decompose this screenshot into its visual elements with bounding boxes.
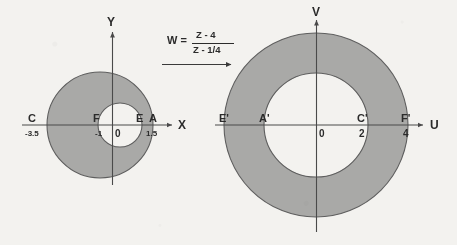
w-plane-tick-label-f-prime: 4 — [403, 128, 409, 139]
w-plane-point-label-a-prime: A' — [259, 112, 270, 124]
z-plane-point-label-a: A — [149, 112, 157, 124]
w-plane-u-axis-label: U — [430, 118, 439, 132]
z-plane-tick-label-a: 1.5 — [146, 129, 158, 138]
diagram-svg: X Y C -3.5 F -1 0 E A 1.5 W = Z - 4 Z - … — [0, 0, 457, 245]
figure-canvas: X Y C -3.5 F -1 0 E A 1.5 W = Z - 4 Z - … — [0, 0, 457, 245]
transform-lhs: W = — [167, 34, 187, 46]
z-plane-y-axis-label: Y — [107, 15, 115, 29]
z-plane-tick-label-f: -1 — [95, 129, 103, 138]
z-plane-tick-label-c: -3.5 — [25, 129, 39, 138]
w-plane-tick-label-c-prime: 2 — [359, 128, 365, 139]
z-plane-origin-label: 0 — [115, 128, 121, 139]
mobius-transform-group: W = Z - 4 Z - 1/4 — [162, 29, 234, 65]
w-plane-point-label-e-prime: E' — [219, 112, 229, 124]
z-plane-group: X Y C -3.5 F -1 0 E A 1.5 — [22, 15, 186, 185]
transform-denominator: Z - 1/4 — [193, 44, 221, 55]
z-plane-point-label-c: C — [28, 112, 36, 124]
w-plane-v-axis-label: V — [312, 5, 320, 19]
z-plane-point-label-f: F — [93, 112, 100, 124]
w-plane-origin-label: 0 — [319, 128, 325, 139]
transform-numerator: Z - 4 — [196, 29, 216, 40]
w-plane-group: U V E' A' 0 C' 2 F' 4 — [215, 5, 439, 232]
w-plane-point-label-f-prime: F' — [401, 112, 411, 124]
z-plane-point-label-e: E — [136, 112, 143, 124]
z-plane-x-axis-label: X — [178, 118, 186, 132]
w-plane-point-label-c-prime: C' — [357, 112, 368, 124]
